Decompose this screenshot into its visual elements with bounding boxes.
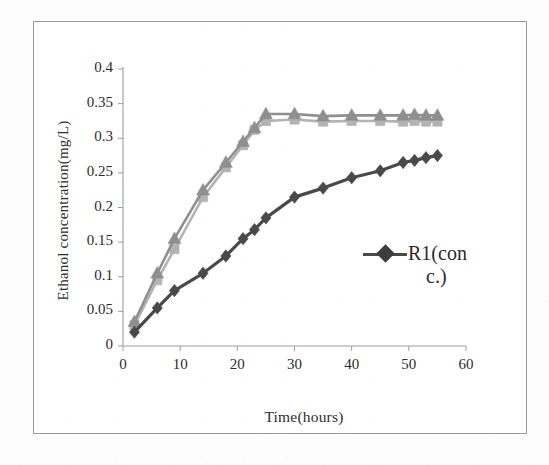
chart-legend: R1(con c.) (363, 242, 493, 288)
x-tick-label: 20 (217, 356, 257, 373)
x-tick-label: 0 (103, 356, 143, 373)
legend-item-r1: R1(con c.) (363, 242, 493, 288)
x-tick-label: 60 (446, 356, 486, 373)
legend-label-line2: c.) (426, 265, 447, 287)
y-tick-label: 0.35 (67, 94, 113, 111)
x-tick-label: 50 (389, 356, 429, 373)
legend-swatch (363, 244, 407, 264)
y-tick-label: 0.1 (67, 267, 113, 284)
figure-root: Ethanol concentration(mg/L) Time(hours) … (0, 0, 549, 465)
x-axis-title: Time(hours) (154, 408, 454, 426)
x-tick-label: 30 (275, 356, 315, 373)
figure-border: Ethanol concentration(mg/L) Time(hours) … (33, 21, 527, 434)
legend-label: R1(con c.) (408, 242, 467, 288)
series-group (128, 107, 444, 338)
y-tick-label: 0.15 (67, 232, 113, 249)
y-tick-label: 0.4 (67, 59, 113, 76)
diamond-marker-icon (376, 244, 394, 262)
y-tick-label: 0.2 (67, 198, 113, 215)
chart-series-upper-square-series (130, 115, 442, 330)
legend-label-line1: R1(con (408, 242, 467, 264)
y-tick-label: 0.25 (67, 163, 113, 180)
x-tick-label: 10 (160, 356, 200, 373)
y-tick-label: 0 (67, 336, 113, 353)
x-tick-label: 40 (332, 356, 372, 373)
y-tick-label: 0.05 (67, 301, 113, 318)
chart-plot-area (34, 22, 528, 435)
y-tick-label: 0.3 (67, 128, 113, 145)
